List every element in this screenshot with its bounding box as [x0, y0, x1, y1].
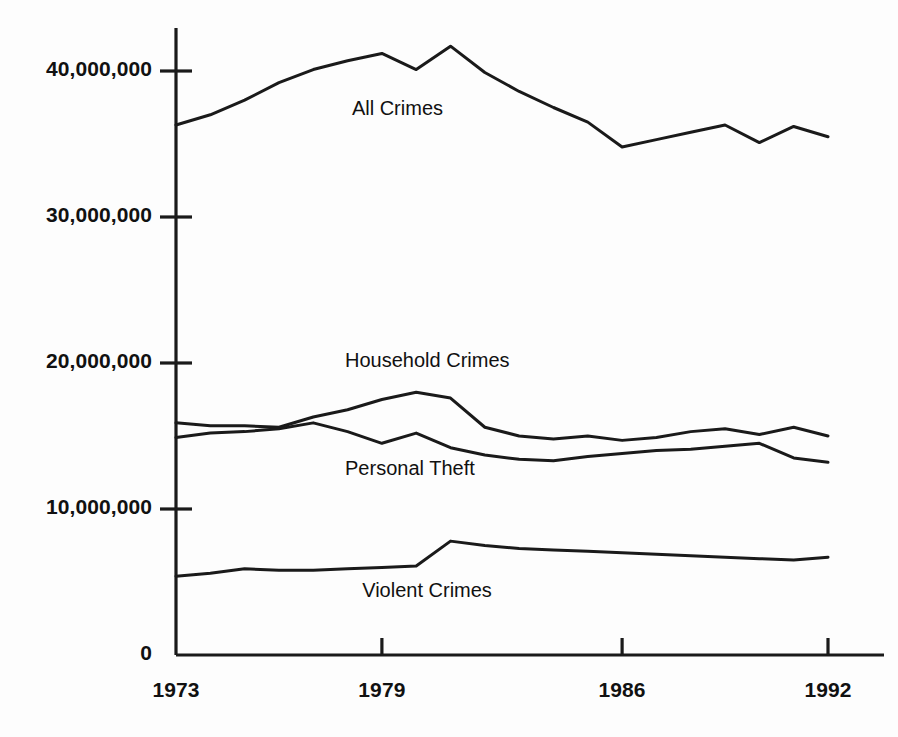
x-axis-label-0: 1973 [116, 678, 236, 702]
x-axis-label-2: 1986 [562, 678, 682, 702]
series-line-all-crimes [176, 46, 828, 147]
y-axis-label-0: 0 [140, 641, 152, 665]
series-annotation-violent-crimes: Violent Crimes [362, 579, 492, 602]
y-axis-label-2: 20,000,000 [46, 349, 152, 373]
series-line-household-crimes [176, 392, 828, 440]
y-axis-label-3: 30,000,000 [46, 203, 152, 227]
x-axis-label-3: 1992 [768, 678, 888, 702]
series-annotation-household-crimes: Household Crimes [345, 349, 510, 372]
series-annotation-all-crimes: All Crimes [352, 97, 443, 120]
series-line-violent-crimes [176, 541, 828, 576]
series-annotation-personal-theft: Personal Theft [345, 457, 475, 480]
line-chart-crime-trends: 010,000,00020,000,00030,000,00040,000,00… [0, 0, 898, 737]
y-axis-label-4: 40,000,000 [46, 57, 152, 81]
x-axis-label-1: 1979 [322, 678, 442, 702]
y-axis-label-1: 10,000,000 [46, 495, 152, 519]
